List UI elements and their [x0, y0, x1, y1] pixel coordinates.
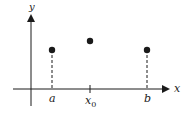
- point-x0: [87, 38, 93, 44]
- function-diagram: x y a x0 b: [0, 0, 190, 114]
- tick-label-x0: x0: [85, 94, 96, 109]
- point-a: [49, 47, 55, 53]
- point-b: [144, 47, 150, 53]
- tick-label-a: a: [49, 92, 56, 105]
- diagram-canvas: x y a x0 b: [0, 0, 190, 114]
- y-axis-label: y: [28, 1, 35, 12]
- x-axis-label: x: [174, 82, 181, 95]
- tick-label-b: b: [144, 92, 151, 105]
